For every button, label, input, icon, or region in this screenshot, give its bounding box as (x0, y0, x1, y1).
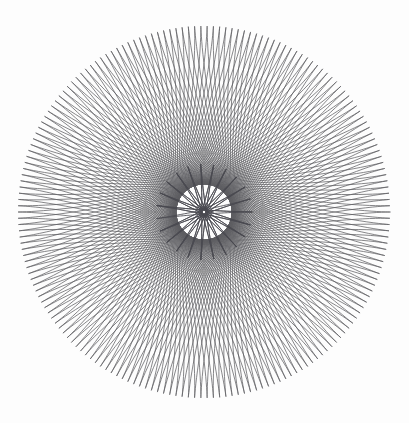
spirograph-drawing (0, 0, 409, 423)
spirograph-canvas (0, 0, 409, 423)
center-hub-dot (203, 211, 205, 213)
